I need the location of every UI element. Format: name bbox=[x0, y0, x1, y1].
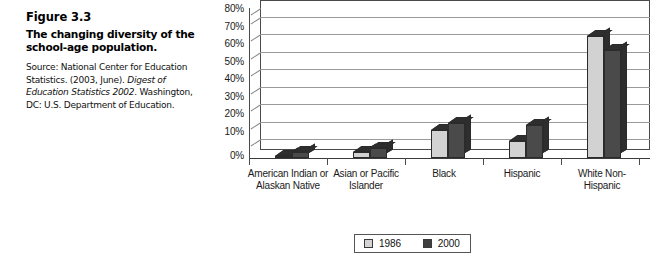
bar-front-face bbox=[448, 123, 465, 158]
bar-side-face bbox=[543, 117, 549, 153]
bar-front-face bbox=[353, 152, 370, 158]
bar-chart: 80% 70% 60% 50% 40% 30% 20% 10% 0% bbox=[200, 8, 652, 260]
legend-swatch-icon bbox=[423, 239, 432, 248]
x-axis-labels: American Indian or Alaskan Native Asian … bbox=[249, 168, 649, 228]
bar-1986[interactable] bbox=[431, 130, 448, 158]
y-tick-label: 10% bbox=[206, 127, 244, 137]
y-tick-label: 20% bbox=[206, 109, 244, 119]
x-axis-line bbox=[249, 158, 650, 159]
plot-area bbox=[249, 8, 639, 158]
bar-2000[interactable] bbox=[526, 125, 543, 158]
y-tick-label: 40% bbox=[206, 74, 244, 84]
bar-group-american-indian bbox=[249, 8, 327, 158]
bar-2000[interactable] bbox=[370, 148, 387, 158]
bar-front-face bbox=[292, 152, 309, 158]
legend-item-1986[interactable]: 1986 bbox=[364, 238, 401, 249]
y-tick-label: 50% bbox=[206, 57, 244, 67]
y-tick-label: 80% bbox=[206, 4, 244, 14]
y-tick-label: 70% bbox=[206, 22, 244, 32]
y-axis: 80% 70% 60% 50% 40% 30% 20% 10% 0% bbox=[200, 8, 244, 178]
x-tick bbox=[483, 158, 484, 165]
bar-2000[interactable] bbox=[448, 123, 465, 158]
y-tick-label: 30% bbox=[206, 92, 244, 102]
bar-1986[interactable] bbox=[509, 141, 526, 159]
bar-side-face bbox=[465, 115, 471, 153]
bar-1986[interactable] bbox=[353, 152, 370, 158]
bar-front-face bbox=[275, 156, 292, 158]
figure-number: Figure 3.3 bbox=[26, 10, 202, 24]
figure-title: The changing diversity of the school-age… bbox=[26, 28, 202, 54]
x-label-american-indian: American Indian or Alaskan Native bbox=[246, 168, 330, 191]
bar-front-face bbox=[431, 130, 448, 158]
bar-2000[interactable] bbox=[604, 50, 621, 158]
x-label-hispanic: Hispanic bbox=[483, 168, 561, 180]
bar-group-white-non-hispanic bbox=[561, 8, 639, 158]
bar-side-face bbox=[621, 42, 627, 153]
bar-group-black bbox=[405, 8, 483, 158]
legend-swatch-icon bbox=[364, 239, 373, 248]
bar-group-asian-pacific bbox=[327, 8, 405, 158]
legend-label: 1986 bbox=[379, 238, 401, 249]
x-tick bbox=[561, 158, 562, 165]
bar-side-face bbox=[387, 140, 393, 153]
x-label-white-non-hispanic: White Non-Hispanic bbox=[561, 168, 643, 191]
legend-label: 2000 bbox=[438, 238, 460, 249]
bar-front-face bbox=[526, 125, 543, 158]
bar-front-face bbox=[604, 50, 621, 158]
bar-2000[interactable] bbox=[292, 152, 309, 158]
bar-1986[interactable] bbox=[275, 156, 292, 158]
bar-1986[interactable] bbox=[587, 36, 604, 158]
bar-front-face bbox=[509, 141, 526, 159]
x-tick bbox=[405, 158, 406, 165]
bar-front-face bbox=[370, 148, 387, 158]
chart-legend: 1986 2000 bbox=[354, 234, 471, 253]
figure-caption: Figure 3.3 The changing diversity of the… bbox=[26, 10, 202, 111]
legend-item-2000[interactable]: 2000 bbox=[423, 238, 460, 249]
x-tick bbox=[327, 158, 328, 165]
bar-front-face bbox=[587, 36, 604, 158]
x-tick bbox=[249, 158, 250, 165]
x-tick bbox=[639, 158, 640, 165]
y-tick-label: 0% bbox=[206, 151, 244, 161]
x-label-asian-pacific: Asian or Pacific Islander bbox=[331, 168, 401, 191]
figure-source: Source: National Center for Education St… bbox=[26, 61, 202, 111]
bar-group-hispanic bbox=[483, 8, 561, 158]
figure-container: Figure 3.3 The changing diversity of the… bbox=[0, 0, 660, 267]
y-tick-label: 60% bbox=[206, 39, 244, 49]
x-label-black: Black bbox=[405, 168, 483, 180]
bar-side-face bbox=[309, 144, 315, 153]
